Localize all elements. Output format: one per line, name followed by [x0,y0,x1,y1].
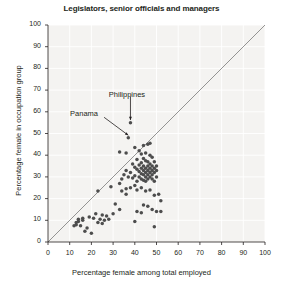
annotation-label-philippines: Philippines [109,90,145,99]
chart-figure: Legislators, senior officials and manage… [0,0,283,288]
annotation-label-panama: Panama [70,109,98,118]
axis-frame [0,0,283,288]
